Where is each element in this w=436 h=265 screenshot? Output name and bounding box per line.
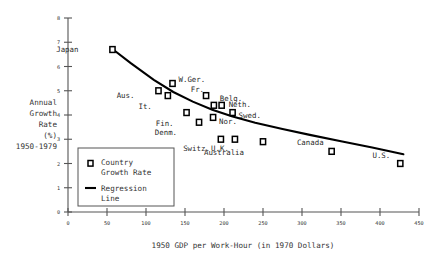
data-point-label: Swed.: [239, 111, 261, 120]
x-tick-label: 0: [66, 220, 69, 226]
y-tick-label: 0: [57, 209, 60, 215]
y-tick-label: 8: [57, 15, 60, 21]
x-tick-label: 50: [104, 220, 110, 226]
data-point-marker: [230, 110, 235, 116]
y-tick-label: 5: [57, 88, 60, 94]
y-tick-label: 1: [57, 185, 60, 191]
y-axis-title-line: Rate: [39, 120, 58, 129]
data-point-marker: [398, 161, 403, 167]
y-tick-label: 2: [57, 161, 60, 167]
regression-line: [112, 49, 403, 154]
legend: Country Growth Rate Regression Line: [78, 148, 174, 206]
data-point-label: Nor.: [219, 117, 237, 126]
legend-label-country-line1: Country: [101, 158, 133, 167]
x-tick-label: 350: [336, 220, 345, 226]
legend-box: [78, 148, 174, 206]
data-point-marker: [110, 47, 115, 53]
legend-square-icon: [88, 161, 93, 167]
x-axis-title: 1950 GDP per Work-Hour (in 1970 Dollars): [152, 241, 335, 250]
x-axis-ticks: 050100150200250300350400450: [66, 208, 423, 226]
x-tick-label: 400: [375, 220, 384, 226]
legend-label-country-line2: Growth Rate: [101, 168, 152, 177]
data-point-marker: [184, 110, 189, 116]
data-point-label: Aus.: [117, 91, 135, 100]
data-point-marker: [196, 119, 201, 125]
data-point-label: Fr.: [191, 85, 204, 94]
data-point-label: U.S.: [372, 151, 390, 160]
y-axis-title-line: Growth: [30, 109, 57, 118]
data-point-label: W.Ger.: [179, 75, 206, 84]
data-point-label: It.: [138, 102, 151, 111]
data-point-marker: [203, 93, 208, 99]
y-axis-title-line: 1950-1979: [16, 142, 58, 151]
data-point-label: Denm.: [155, 128, 177, 137]
data-point-marker: [329, 148, 334, 154]
x-tick-label: 150: [180, 220, 189, 226]
y-tick-label: 6: [57, 64, 60, 70]
data-point-label: Neth.: [229, 100, 251, 109]
data-point-marker: [211, 102, 216, 108]
x-tick-label: 450: [414, 220, 423, 226]
data-point-marker: [170, 81, 175, 87]
x-tick-label: 250: [258, 220, 267, 226]
data-point-marker: [156, 88, 161, 94]
data-point-label: Japan: [56, 45, 78, 54]
data-point-marker: [210, 115, 215, 121]
chart-container: 012345678 050100150200250300350400450 An…: [0, 0, 436, 265]
data-point-label: Fin.: [156, 119, 174, 128]
y-axis-title: AnnualGrowthRate(%)1950-1979: [16, 98, 58, 151]
legend-label-regression-line2: Line: [101, 194, 120, 203]
scatter-plot-svg: 012345678 050100150200250300350400450 An…: [0, 0, 436, 265]
data-point-label: Canada: [297, 138, 324, 147]
x-tick-label: 100: [141, 220, 150, 226]
y-axis-title-line: (%): [43, 131, 57, 140]
data-point-marker: [218, 136, 223, 142]
data-point-label: Australia: [204, 148, 244, 157]
y-tick-label: 4: [57, 112, 60, 118]
x-tick-label: 200: [219, 220, 228, 226]
data-point-marker: [260, 139, 265, 145]
y-tick-label: 3: [57, 136, 60, 142]
y-axis-title-line: Annual: [30, 98, 57, 107]
x-tick-label: 300: [297, 220, 306, 226]
data-point-marker: [232, 136, 237, 142]
legend-label-regression-line1: Regression: [101, 184, 147, 193]
data-point-marker: [165, 93, 170, 99]
